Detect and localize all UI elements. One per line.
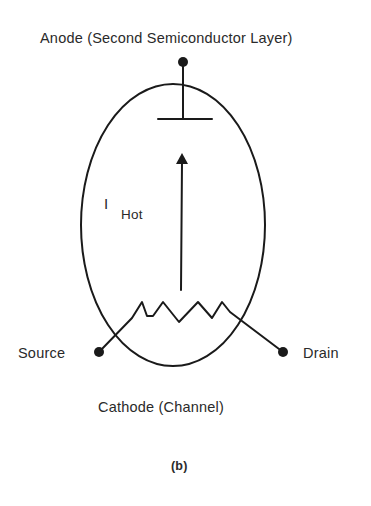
source-terminal-dot xyxy=(94,347,104,357)
figure-label: (b) xyxy=(171,459,188,473)
source-label: Source xyxy=(18,345,65,361)
drain-label: Drain xyxy=(303,345,339,361)
drain-terminal-dot xyxy=(278,347,288,357)
device-envelope-ellipse xyxy=(81,84,265,366)
current-subscript: Hot xyxy=(121,207,143,222)
hot-current-arrow-shaft xyxy=(181,162,182,290)
current-symbol: I xyxy=(104,195,108,212)
cathode-channel-zigzag xyxy=(99,302,283,352)
anode-label: Anode (Second Semiconductor Layer) xyxy=(40,30,293,46)
schematic-canvas xyxy=(0,0,371,506)
cathode-label: Cathode (Channel) xyxy=(98,399,224,415)
arrow-head-icon xyxy=(176,153,188,164)
anode-terminal-dot xyxy=(178,57,188,67)
